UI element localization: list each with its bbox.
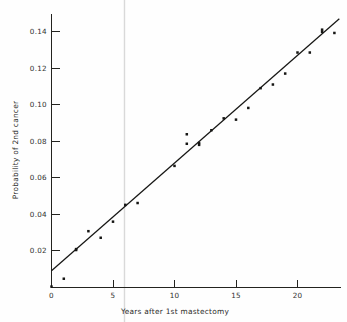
data-point bbox=[284, 72, 287, 75]
data-point bbox=[321, 28, 324, 31]
y-axis-title: Probability of 2nd cancer bbox=[11, 100, 20, 199]
data-point bbox=[136, 202, 139, 205]
scatter-points bbox=[50, 28, 335, 287]
data-series-layer bbox=[50, 19, 339, 288]
y-tick-label-0: 0.02 bbox=[30, 246, 47, 255]
data-point bbox=[296, 51, 299, 54]
chart-figure: 0.02 0.04 0.06 0.08 0.10 0.12 0.14 0 5 1… bbox=[0, 0, 347, 322]
y-tick-label-5: 0.12 bbox=[30, 64, 47, 73]
x-axis-ticks bbox=[52, 280, 298, 288]
chart-canvas: 0.02 0.04 0.06 0.08 0.10 0.12 0.14 0 5 1… bbox=[0, 0, 347, 322]
y-tick-label-3: 0.08 bbox=[30, 137, 47, 146]
data-point bbox=[235, 118, 238, 121]
y-tick-label-6: 0.14 bbox=[30, 27, 47, 36]
data-point bbox=[112, 220, 115, 223]
data-point bbox=[63, 277, 66, 280]
x-tick-label-4: 20 bbox=[293, 291, 303, 300]
y-tick-label-1: 0.04 bbox=[30, 210, 47, 219]
x-axis-tick-labels: 0 5 10 15 20 bbox=[49, 291, 302, 300]
y-tick-label-2: 0.06 bbox=[30, 173, 47, 182]
data-point bbox=[333, 32, 336, 35]
y-axis-ticks bbox=[52, 32, 60, 251]
x-tick-label-1: 5 bbox=[111, 291, 116, 300]
data-point bbox=[99, 237, 102, 240]
data-point bbox=[173, 165, 176, 168]
fitted-trend-line bbox=[52, 19, 340, 271]
x-tick-label-3: 15 bbox=[231, 291, 241, 300]
data-point bbox=[309, 51, 312, 54]
data-point bbox=[186, 143, 189, 146]
x-axis-title: Years after 1st mastectomy bbox=[120, 307, 229, 316]
data-point bbox=[247, 107, 250, 110]
x-tick-label-0: 0 bbox=[49, 291, 54, 300]
data-point bbox=[50, 285, 53, 288]
y-axis-tick-labels: 0.02 0.04 0.06 0.08 0.10 0.12 0.14 bbox=[30, 27, 47, 255]
data-point bbox=[186, 133, 189, 136]
x-tick-label-2: 10 bbox=[170, 291, 180, 300]
y-tick-label-4: 0.10 bbox=[30, 100, 47, 109]
data-point bbox=[272, 83, 275, 86]
data-point bbox=[87, 230, 90, 233]
